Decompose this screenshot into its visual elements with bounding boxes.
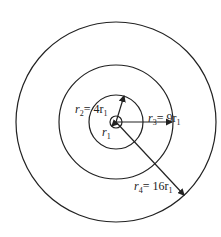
label-r4: r4= 16r1 xyxy=(134,180,172,195)
label-r1: r1 xyxy=(102,126,111,141)
concentric-circles-diagram xyxy=(0,0,221,237)
label-r2: r2= 4r1 xyxy=(75,103,107,118)
arrow-r1 xyxy=(112,122,116,126)
label-r3: r3= 9r1 xyxy=(148,112,180,127)
